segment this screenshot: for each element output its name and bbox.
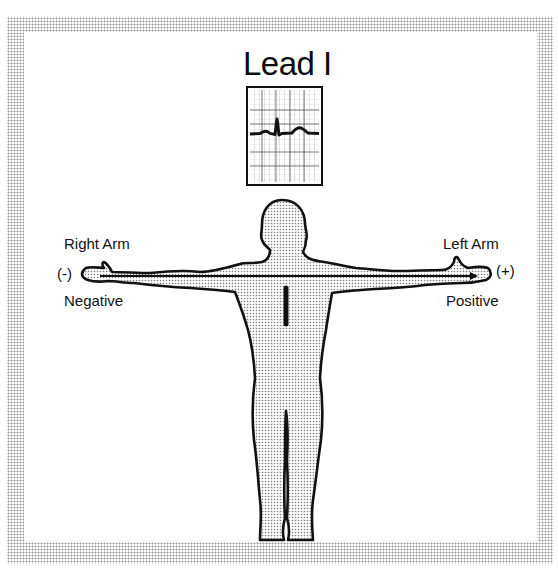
- negative-polarity-label: Negative: [64, 293, 123, 308]
- diagram-graphics: [0, 0, 558, 581]
- positive-polarity-symbol: (+): [496, 263, 515, 278]
- right-arm-label: Right Arm: [64, 236, 130, 251]
- positive-polarity-label: Positive: [446, 293, 499, 308]
- ecg-strip: [247, 87, 322, 185]
- body-silhouette: [82, 200, 491, 540]
- lead-i-diagram: Lead I: [0, 0, 558, 581]
- left-arm-label: Left Arm: [443, 236, 499, 251]
- negative-polarity-symbol: (-): [57, 266, 72, 281]
